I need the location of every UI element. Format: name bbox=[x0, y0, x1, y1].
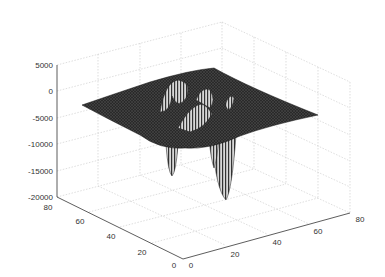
svg-text:-10000: -10000 bbox=[28, 140, 53, 149]
svg-text:5000: 5000 bbox=[35, 61, 53, 70]
svg-text:60: 60 bbox=[314, 227, 323, 236]
svg-text:20: 20 bbox=[138, 248, 147, 257]
svg-text:20: 20 bbox=[231, 250, 240, 259]
y-axis-ticks: 80 60 40 20 0 bbox=[44, 203, 177, 270]
svg-text:40: 40 bbox=[107, 232, 116, 241]
z-axis-ticks: 5000 0 -5000 -10000 -15000 -20000 bbox=[28, 61, 53, 202]
surface-mesh bbox=[82, 68, 318, 200]
svg-text:0: 0 bbox=[49, 87, 54, 96]
svg-text:60: 60 bbox=[76, 217, 85, 226]
svg-text:-5000: -5000 bbox=[33, 114, 54, 123]
svg-text:-15000: -15000 bbox=[28, 167, 53, 176]
svg-text:80: 80 bbox=[44, 203, 53, 212]
x-axis-ticks: 0 20 40 60 80 bbox=[189, 215, 365, 270]
svg-text:40: 40 bbox=[273, 238, 282, 247]
svg-text:0: 0 bbox=[172, 261, 177, 270]
svg-text:-20000: -20000 bbox=[28, 193, 53, 202]
svg-text:0: 0 bbox=[189, 261, 194, 270]
surface-plot: 5000 0 -5000 -10000 -15000 -20000 80 60 … bbox=[0, 0, 385, 277]
svg-text:80: 80 bbox=[356, 215, 365, 224]
